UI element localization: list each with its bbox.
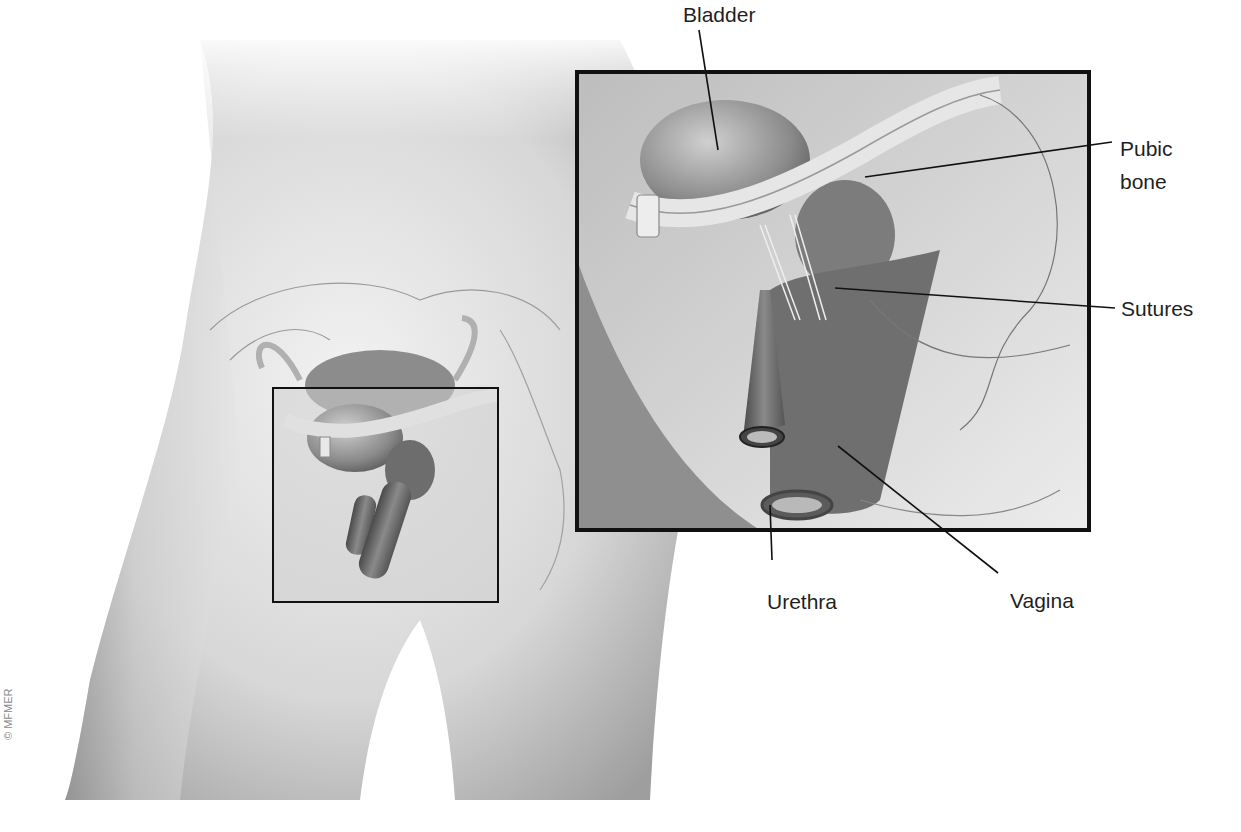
- illustration-canvas: Bladder Pubic bone Sutures Urethra Vagin…: [0, 0, 1241, 832]
- label-bladder: Bladder: [683, 3, 755, 27]
- label-pubic-bone-line1: Pubic: [1120, 137, 1173, 161]
- label-vagina: Vagina: [1010, 589, 1074, 613]
- label-sutures: Sutures: [1121, 297, 1193, 321]
- label-pubic-bone-line2: bone: [1120, 170, 1167, 194]
- copyright-notice: © MFMER: [2, 689, 14, 741]
- label-urethra: Urethra: [767, 590, 837, 614]
- anatomy-illustration: [0, 0, 1241, 832]
- small-inset-box: [273, 388, 498, 602]
